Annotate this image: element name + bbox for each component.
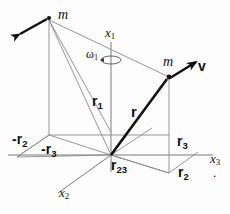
r23-subscript: 23	[116, 164, 127, 175]
label-velocity: v	[198, 59, 206, 73]
label-r3-negative: -r3	[41, 142, 56, 158]
mass-point-upper-left	[47, 16, 51, 20]
left-base-parallelogram	[17, 135, 111, 157]
label-stray-dot: .	[213, 166, 216, 179]
label-r3-positive: r3	[177, 134, 188, 150]
stray-dot-text: .	[213, 165, 216, 180]
label-r1: r1	[92, 94, 103, 110]
label-axis-x1: x1	[105, 26, 115, 41]
r1-subscript: 1	[97, 100, 102, 111]
axis-x1-subscript: 1	[111, 31, 115, 41]
axis-x3-subscript: 3	[216, 157, 220, 167]
r23-projection-line	[111, 128, 152, 155]
left-plane-group	[17, 20, 169, 157]
r-vector-text: r	[131, 103, 137, 120]
r3-negative-text: -r	[41, 141, 51, 157]
vector-r-line	[111, 79, 167, 155]
label-omega: ω1	[86, 48, 98, 62]
label-r2-positive: r2	[178, 165, 189, 181]
label-r2-negative: -r2	[12, 132, 27, 148]
r3-positive-subscript: 3	[182, 140, 187, 151]
velocity-text: v	[198, 58, 206, 74]
r2-positive-subscript: 2	[183, 171, 188, 182]
omega-subscript: 1	[94, 53, 98, 62]
r3-negative-subscript: 3	[51, 148, 56, 159]
r2-negative-subscript: 2	[22, 138, 27, 149]
mass-right-text: m	[163, 54, 173, 69]
figure-canvas: m m v ω1 x1 x2 x3 r1 r r23 r2 r3 -r2 -r3…	[0, 0, 230, 214]
velocity-arrow-right	[170, 62, 196, 78]
label-mass-right: m	[163, 55, 173, 69]
r2-negative-text: -r	[12, 131, 22, 147]
axis-x2-subscript: 2	[65, 191, 69, 201]
label-r23: r23	[111, 158, 127, 174]
left-mass-to-corner	[49, 20, 111, 132]
mass-upper-left-text: m	[58, 7, 68, 22]
velocity-arrow-left	[20, 19, 47, 34]
label-mass-upper-left: m	[58, 8, 68, 22]
label-r-vector: r	[131, 104, 137, 119]
label-axis-x2: x2	[59, 186, 69, 201]
omega-symbol: ω	[86, 47, 94, 61]
mass-point-right	[167, 75, 172, 80]
